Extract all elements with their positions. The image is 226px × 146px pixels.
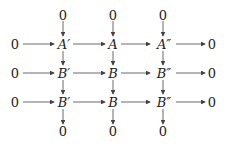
row3-right-zero: 0 [208, 96, 216, 109]
node-a-prime: A′ [58, 38, 70, 51]
node-b-prime-2: B′ [58, 96, 71, 109]
node-a-double-prime: A″ [157, 38, 171, 51]
node-b-double-prime: B″ [157, 67, 171, 80]
node-b-prime: B′ [58, 67, 71, 80]
top-zero-2: 0 [109, 9, 117, 22]
row2-right-zero: 0 [208, 67, 216, 80]
node-a: A [108, 38, 117, 51]
bottom-zero-1: 0 [59, 125, 67, 138]
row3-left-zero: 0 [11, 96, 19, 109]
node-b-2: B [108, 96, 118, 109]
node-b: B [108, 67, 118, 80]
node-b-double-prime-2: B″ [157, 96, 171, 109]
top-zero-3: 0 [159, 9, 167, 22]
row1-right-zero: 0 [208, 38, 216, 51]
top-zero-1: 0 [59, 9, 67, 22]
row2-left-zero: 0 [11, 67, 19, 80]
bottom-zero-3: 0 [159, 125, 167, 138]
row1-left-zero: 0 [11, 38, 19, 51]
bottom-zero-2: 0 [109, 125, 117, 138]
